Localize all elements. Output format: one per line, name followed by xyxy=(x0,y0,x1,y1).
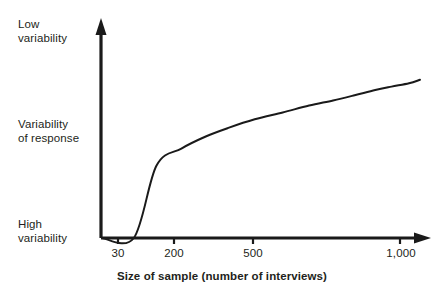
x-axis-arrowhead xyxy=(414,233,431,244)
y-axis-label-high-variability: High variability xyxy=(18,217,94,245)
x-tick-label-500: 500 xyxy=(233,247,273,260)
x-tick-label-200: 200 xyxy=(154,247,194,260)
chart-plot-area xyxy=(0,0,444,307)
chart-figure: Low variability Variability of response … xyxy=(0,0,444,307)
y-axis-label-variability-of-response: Variability of response xyxy=(18,117,100,145)
x-tick-label-1000: 1,000 xyxy=(379,247,423,260)
y-axis-label-low-variability: Low variability xyxy=(18,17,94,45)
x-axis-title: Size of sample (number of interviews) xyxy=(0,270,444,282)
y-axis-arrowhead xyxy=(96,18,107,35)
x-tick-label-30: 30 xyxy=(98,247,138,260)
data-curve-line xyxy=(102,80,420,244)
